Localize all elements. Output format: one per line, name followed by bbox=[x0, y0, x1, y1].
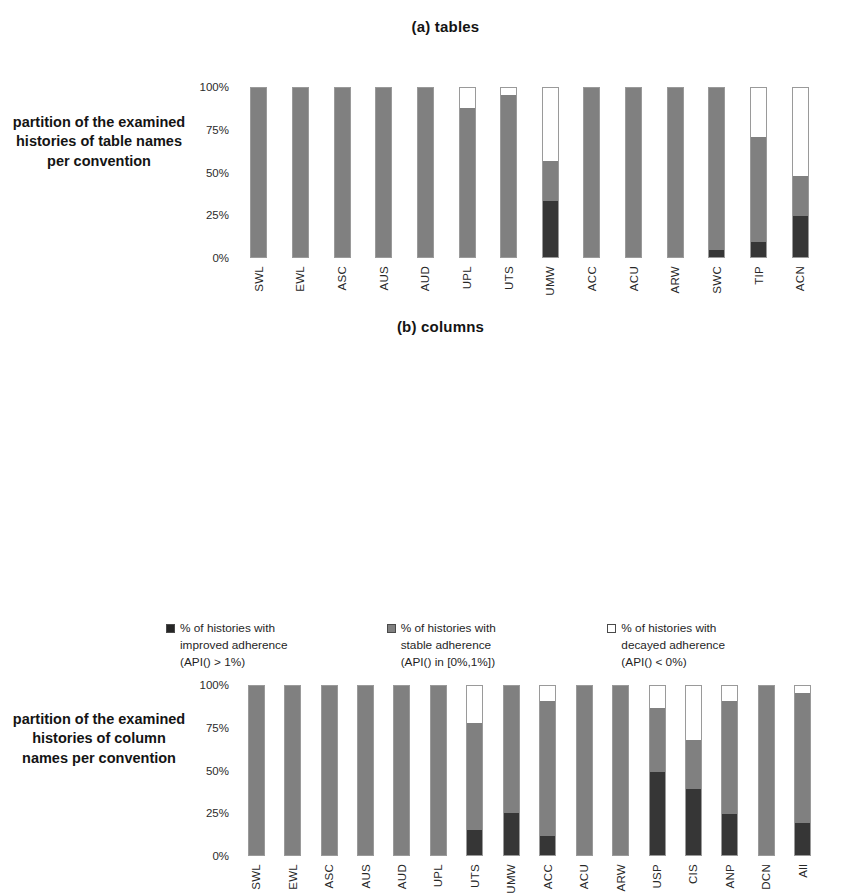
x-tick-label: USP bbox=[651, 864, 663, 889]
bar-segment-stable bbox=[358, 686, 373, 855]
stacked-bar[interactable] bbox=[357, 685, 374, 856]
x-tick-label: ACC bbox=[542, 864, 554, 889]
stacked-bar[interactable] bbox=[248, 685, 265, 856]
bar-segment-stable bbox=[376, 88, 391, 257]
stacked-bar[interactable] bbox=[375, 87, 392, 258]
plot-area-tables: 0%25%50%75%100% SWLEWLASCAUSAUDUPLUTSUMW… bbox=[238, 87, 821, 258]
x-tick-label: UMW bbox=[505, 864, 517, 894]
bar-slot: TIP bbox=[738, 87, 780, 258]
stacked-bar[interactable] bbox=[250, 87, 267, 258]
bar-segment-improved bbox=[722, 814, 737, 855]
y-tick-label: 75% bbox=[206, 124, 229, 136]
bar-slot: EWL bbox=[280, 87, 322, 258]
stacked-bar[interactable] bbox=[539, 685, 556, 856]
legend-label-line: (API() > 1%) bbox=[180, 654, 288, 671]
stacked-bar[interactable] bbox=[321, 685, 338, 856]
bar-segment-improved bbox=[540, 836, 555, 855]
bar-slot: UTS bbox=[488, 87, 530, 258]
bar-segment-stable bbox=[543, 161, 558, 202]
legend-item[interactable]: % of histories withimproved adherence(AP… bbox=[166, 620, 345, 672]
bar-segment-stable bbox=[249, 686, 264, 855]
bar-segment-stable bbox=[626, 88, 641, 257]
x-tick-label: AUS bbox=[378, 266, 390, 291]
stacked-bar[interactable] bbox=[503, 685, 520, 856]
legend-label-line: (API() in [0%,1%]) bbox=[401, 654, 496, 671]
legend-swatch-decayed bbox=[607, 624, 616, 633]
legend-label-line: (API() < 0%) bbox=[621, 654, 725, 671]
bar-slot: AUD bbox=[405, 87, 447, 258]
bar-segment-stable bbox=[793, 176, 808, 217]
x-tick-label: ACU bbox=[578, 864, 590, 889]
bar-segment-stable bbox=[668, 88, 683, 257]
x-tick-label: ARW bbox=[669, 266, 681, 294]
bar-segment-improved bbox=[543, 201, 558, 257]
stacked-bar[interactable] bbox=[542, 87, 559, 258]
stacked-bar[interactable] bbox=[417, 87, 434, 258]
bar-segment-decayed bbox=[793, 88, 808, 176]
x-tick-label: UPL bbox=[432, 864, 444, 887]
x-tick-label: AUS bbox=[360, 864, 372, 889]
legend-swatch-improved bbox=[166, 624, 175, 633]
bar-slot: UPL bbox=[446, 87, 488, 258]
x-tick-label: SWL bbox=[250, 864, 262, 890]
legend-label-line: stable adherence bbox=[401, 637, 496, 654]
stacked-bar[interactable] bbox=[667, 87, 684, 258]
bar-segment-stable bbox=[751, 137, 766, 242]
stacked-bar[interactable] bbox=[430, 685, 447, 856]
x-tick-label: EWL bbox=[287, 864, 299, 890]
y-tick-label: 75% bbox=[206, 722, 229, 734]
bar-slot: USP bbox=[639, 685, 675, 856]
bar-slot: All bbox=[785, 685, 821, 856]
stacked-bar[interactable] bbox=[334, 87, 351, 258]
bar-slot: SWL bbox=[238, 685, 274, 856]
stacked-bar[interactable] bbox=[284, 685, 301, 856]
bar-segment-decayed bbox=[543, 88, 558, 161]
bar-segment-improved bbox=[504, 813, 519, 855]
bar-group-columns: SWLEWLASCAUSAUDUPLUTSUMWACCACUARWUSPCISA… bbox=[238, 685, 821, 856]
y-tick-label: 25% bbox=[206, 209, 229, 221]
stacked-bar[interactable] bbox=[625, 87, 642, 258]
x-tick-label: ASC bbox=[323, 864, 335, 889]
bar-slot: ACN bbox=[779, 87, 821, 258]
stacked-bar[interactable] bbox=[708, 87, 725, 258]
legend-item[interactable]: % of histories withdecayed adherence(API… bbox=[607, 620, 786, 672]
stacked-bar[interactable] bbox=[459, 87, 476, 258]
stacked-bar[interactable] bbox=[393, 685, 410, 856]
stacked-bar[interactable] bbox=[649, 685, 666, 856]
stacked-bar[interactable] bbox=[612, 685, 629, 856]
bar-segment-decayed bbox=[751, 88, 766, 137]
x-tick-label: ACU bbox=[628, 266, 640, 291]
bar-slot: ARW bbox=[602, 685, 638, 856]
x-tick-label: AUD bbox=[396, 864, 408, 889]
stacked-bar[interactable] bbox=[583, 87, 600, 258]
bar-slot: ANP bbox=[712, 685, 748, 856]
legend-label-line: improved adherence bbox=[180, 637, 288, 654]
legend-item[interactable]: % of histories withstable adherence(API(… bbox=[387, 620, 566, 672]
stacked-bar[interactable] bbox=[685, 685, 702, 856]
stacked-bar[interactable] bbox=[750, 87, 767, 258]
y-tick-label: 50% bbox=[206, 167, 229, 179]
bar-slot: ACU bbox=[566, 685, 602, 856]
stacked-bar[interactable] bbox=[794, 685, 811, 856]
panel-b-title: (b) columns bbox=[0, 318, 851, 335]
bar-segment-improved bbox=[751, 242, 766, 257]
stacked-bar[interactable] bbox=[466, 685, 483, 856]
bar-segment-decayed bbox=[650, 686, 665, 708]
stacked-bar[interactable] bbox=[576, 685, 593, 856]
y-tick-label: 0% bbox=[212, 850, 229, 862]
stacked-bar[interactable] bbox=[792, 87, 809, 258]
panel-columns: (b) columns partition of the examined hi… bbox=[0, 318, 851, 613]
stacked-bar[interactable] bbox=[758, 685, 775, 856]
bar-group-tables: SWLEWLASCAUSAUDUPLUTSUMWACCACUARWSWCTIPA… bbox=[238, 87, 821, 258]
stacked-bar[interactable] bbox=[721, 685, 738, 856]
panel-a-title: (a) tables bbox=[0, 18, 851, 35]
x-tick-label: UPL bbox=[461, 266, 473, 289]
stacked-bar[interactable] bbox=[500, 87, 517, 258]
bar-segment-stable bbox=[431, 686, 446, 855]
bar-segment-stable bbox=[650, 708, 665, 772]
stacked-bar[interactable] bbox=[292, 87, 309, 258]
bar-slot: SWL bbox=[238, 87, 280, 258]
bar-segment-improved bbox=[709, 250, 724, 257]
bar-segment-stable bbox=[795, 693, 810, 823]
